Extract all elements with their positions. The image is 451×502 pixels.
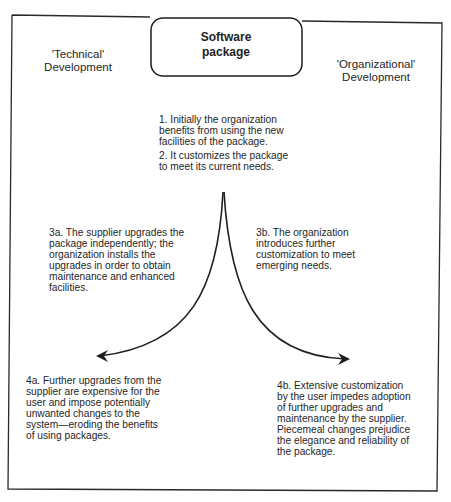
technical-development-heading: 'Technical' Development (28, 48, 128, 74)
step-4a-text: 4a. Further upgrades from the supplier a… (26, 375, 186, 441)
step-2-text: 2. It customizes the package to meet its… (159, 150, 309, 172)
organizational-development-heading: 'Organizational' Development (320, 58, 432, 84)
step-3a-text: 3a. The supplier upgrades the package in… (49, 227, 199, 293)
organizational-path-curve (224, 192, 345, 359)
software-package-title: Software package (180, 30, 272, 60)
step-3b-text: 3b. The organization introduces further … (256, 227, 396, 271)
step-1-text: 1. Initially the organization benefits f… (159, 114, 309, 147)
left-arrowhead-icon (96, 350, 108, 362)
step-4b-text: 4b. Extensive customization by the user … (277, 380, 437, 457)
